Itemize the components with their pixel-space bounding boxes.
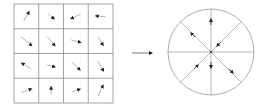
orientation-diagram [0, 0, 263, 108]
gradient-vector-icon [98, 85, 103, 96]
gradient-vector-icon [98, 61, 104, 71]
gradient-vector-icon [21, 37, 32, 46]
histogram-arrow-icon [194, 65, 198, 69]
gradient-vector-icon [47, 65, 55, 67]
orientation-histogram [168, 9, 254, 95]
gradient-vector-icon [98, 37, 103, 46]
gradient-vector-icon [96, 16, 106, 17]
gradient-vector-icon [22, 63, 32, 69]
gradient-vector-icon [71, 40, 81, 43]
gradient-vector-icon [47, 37, 55, 46]
gradient-vector-icon [48, 14, 54, 19]
histogram-arrow-icon [217, 42, 221, 46]
gradient-vector-icon [71, 14, 81, 19]
gradient-vector-icon [21, 89, 31, 93]
gradient-vector-icon [72, 62, 80, 70]
center-dot [210, 51, 213, 54]
gradient-grid [14, 4, 113, 103]
gradient-vector-icon [72, 89, 80, 92]
gradient-vector-icon [24, 12, 30, 22]
